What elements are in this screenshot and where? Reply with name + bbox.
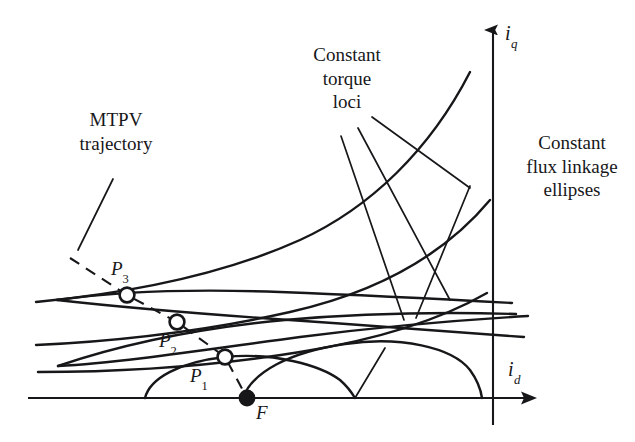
point-marker-P3	[120, 288, 135, 303]
torque-label-line-3: loci	[288, 90, 406, 114]
mtpv-label-line-1: MTPV	[60, 108, 172, 132]
point-label-P3-letter: P	[111, 258, 123, 279]
flux-ellipse-small-outer	[243, 341, 482, 398]
q-axis-label: iq	[505, 22, 517, 49]
mtpv-label-line-2: trajectory	[60, 132, 172, 156]
constant-flux-linkage-ellipses-group	[57, 291, 528, 398]
constant-flux-linkage-ellipses-label: Constant flux linkage ellipses	[512, 131, 632, 202]
flux-label-line-1: Constant	[512, 131, 632, 155]
point-label-F: F	[256, 402, 268, 424]
point-label-P2-letter: P	[159, 330, 171, 351]
leader-line-torque-1	[372, 117, 470, 188]
d-axis-label-subscript: d	[514, 372, 521, 387]
torque-label-line-1: Constant	[288, 43, 406, 67]
point-marker-F	[239, 390, 254, 405]
point-label-P3-subscript: 3	[123, 272, 129, 286]
point-marker-P1	[218, 350, 233, 365]
point-label-P1-letter: P	[190, 365, 202, 386]
mtpv-trajectory-label: MTPV trajectory	[60, 108, 172, 155]
leader-line-torque-3	[341, 136, 404, 320]
leader-line-torque-2	[358, 128, 450, 300]
flux-label-line-2: flux linkage	[512, 155, 632, 179]
leader-line-mtpv	[78, 179, 113, 250]
point-label-P3: P3	[111, 258, 129, 284]
point-label-P1-subscript: 1	[202, 379, 208, 393]
point-label-P2-subscript: 2	[171, 344, 177, 358]
q-axis-label-symbol: i	[505, 22, 511, 44]
leader-line-flux-2	[355, 348, 385, 398]
flux-label-line-3: ellipses	[512, 178, 632, 202]
q-axis-label-subscript: q	[511, 36, 518, 51]
d-axis-label: id	[508, 358, 520, 385]
mtpv-diagram-figure: MTPV trajectory Constant torque loci Con…	[0, 0, 635, 442]
point-label-P1: P1	[190, 365, 208, 391]
constant-torque-loci-label: Constant torque loci	[288, 43, 406, 114]
point-marker-P2	[170, 315, 185, 330]
d-axis-label-symbol: i	[508, 358, 514, 380]
torque-label-line-2: torque	[288, 67, 406, 91]
axes-group	[28, 30, 534, 425]
point-label-F-letter: F	[256, 402, 268, 423]
point-label-P2: P2	[159, 330, 177, 356]
